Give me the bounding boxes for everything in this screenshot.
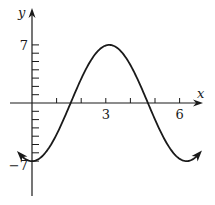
y-axis-label: y bbox=[17, 5, 26, 20]
x-tick-label: 3 bbox=[102, 107, 110, 122]
x-tick-label: 6 bbox=[175, 107, 183, 122]
axes: x y bbox=[10, 5, 205, 196]
x-axis-label: x bbox=[197, 86, 205, 101]
x-ticks bbox=[57, 98, 180, 103]
y-tick-label: 7 bbox=[20, 38, 28, 53]
y-tick-label: −7 bbox=[9, 158, 28, 173]
sinusoid-graph: x y 367−7 bbox=[0, 0, 215, 205]
